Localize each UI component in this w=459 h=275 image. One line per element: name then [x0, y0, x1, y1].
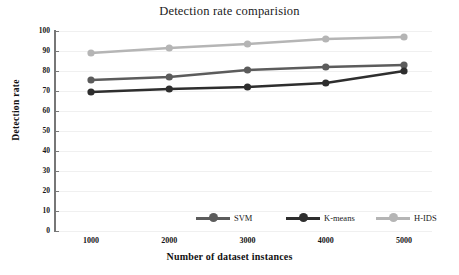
data-point: [322, 63, 329, 70]
data-point: [244, 83, 251, 90]
data-point: [87, 76, 94, 83]
y-tick-label: 90: [24, 47, 50, 55]
x-axis-label: Number of dataset instances: [0, 251, 459, 262]
y-tick-label: 100: [24, 27, 50, 35]
x-tick-label: 1000: [61, 236, 121, 245]
data-point: [87, 49, 94, 56]
legend-swatch-icon: [286, 210, 320, 226]
data-point: [166, 73, 173, 80]
data-point: [244, 66, 251, 73]
x-tick-label: 4000: [296, 236, 356, 245]
y-tick-label: 60: [24, 107, 50, 115]
legend-item-h-ids[interactable]: H-IDS: [376, 210, 437, 226]
legend-label: H-IDS: [414, 213, 437, 223]
data-point: [87, 88, 94, 95]
y-tick-label: 40: [24, 147, 50, 155]
x-tick-label: 3000: [218, 236, 278, 245]
data-point: [166, 44, 173, 51]
legend-swatch-icon: [376, 210, 410, 226]
legend-label: K-means: [324, 213, 355, 223]
detection-rate-chart: Detection rate comparision 1009080706050…: [0, 0, 459, 275]
chart-title: Detection rate comparision: [0, 4, 459, 19]
y-tick-label: 70: [24, 87, 50, 95]
plot-area: [55, 31, 432, 231]
legend-swatch-icon: [196, 210, 230, 226]
y-axis-label: Detection rate: [11, 45, 21, 175]
y-tick-label: 50: [24, 127, 50, 135]
y-tick-label: 10: [24, 207, 50, 215]
y-tick-label: 20: [24, 187, 50, 195]
y-tick-label: 30: [24, 167, 50, 175]
legend-label: SVM: [234, 213, 252, 223]
chart-legend: SVMK-meansH-IDS: [196, 210, 446, 226]
y-tick-label: 80: [24, 67, 50, 75]
series-layer: [55, 31, 432, 231]
x-tick-label: 5000: [374, 236, 434, 245]
data-point: [244, 40, 251, 47]
data-point: [400, 33, 407, 40]
data-point: [166, 85, 173, 92]
data-point: [400, 67, 407, 74]
x-tick-label: 2000: [139, 236, 199, 245]
data-point: [322, 35, 329, 42]
grid-line: [59, 231, 432, 232]
legend-item-k-means[interactable]: K-means: [286, 210, 355, 226]
legend-item-svm[interactable]: SVM: [196, 210, 252, 226]
y-tick-label: 0: [24, 227, 50, 235]
data-point: [322, 79, 329, 86]
